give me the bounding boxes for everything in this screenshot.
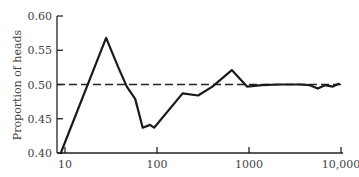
x-tick-label: 100 [147,158,168,171]
y-axis-label: Proportion of heads [11,29,24,140]
y-tick-label: 0.55 [28,44,53,57]
y-tick-label: 0.50 [28,79,53,92]
x-axis: 10100100010,000 [57,147,359,171]
proportion-of-heads-chart: Proportion of heads 0.400.450.500.550.60… [0,0,359,177]
x-tick-label: 1000 [235,158,263,171]
x-tick-label: 10 [58,158,72,171]
y-tick-label: 0.45 [28,113,53,126]
y-tick-label: 0.60 [28,10,53,23]
data-series [61,38,339,153]
y-axis-title: Proportion of heads [11,29,24,140]
y-tick-label: 0.40 [28,147,53,160]
x-tick-label: 10,000 [322,158,359,171]
proportion-line [61,38,339,153]
